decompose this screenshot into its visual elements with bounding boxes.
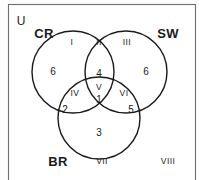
count-sw-only: 6 bbox=[143, 67, 149, 77]
region-label-iii: III bbox=[123, 38, 131, 47]
count-cr-sw-only: 4 bbox=[96, 69, 102, 79]
set-label-sw: SW bbox=[157, 27, 179, 40]
count-cr-br-only: 2 bbox=[62, 105, 68, 115]
region-label-i: I bbox=[71, 38, 74, 47]
set-label-cr: CR bbox=[34, 27, 53, 40]
region-label-vii: VII bbox=[96, 157, 108, 166]
set-label-br: BR bbox=[48, 155, 67, 168]
region-label-v: V bbox=[96, 83, 102, 92]
region-label-viii: VIII bbox=[161, 157, 175, 166]
count-sw-br-only: 5 bbox=[128, 105, 134, 115]
region-label-ii: II bbox=[96, 38, 102, 47]
count-cr-only: 6 bbox=[50, 67, 56, 77]
universe-label: U bbox=[17, 15, 26, 27]
region-label-iv: IV bbox=[71, 89, 80, 98]
count-br-only-top: 3 bbox=[96, 128, 102, 138]
count-center: 1 bbox=[96, 95, 102, 105]
venn-diagram: U CR SW BR I II III IV V VI VII VIII 6 4… bbox=[0, 0, 199, 180]
region-label-vi: VI bbox=[120, 89, 129, 98]
